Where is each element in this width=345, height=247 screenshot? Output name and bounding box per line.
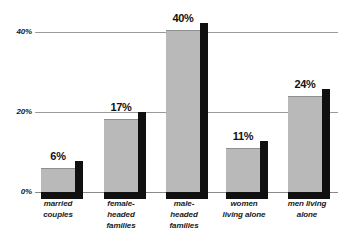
x-axis-label-men-living-alone: men living alone xyxy=(274,198,340,220)
x-label-line: female- xyxy=(88,198,154,209)
x-label-line: living alone xyxy=(211,209,277,220)
bar-side-face xyxy=(200,30,208,199)
bar-side-top xyxy=(322,89,330,96)
bar-side-face xyxy=(260,148,268,199)
bar-front-face xyxy=(166,30,200,192)
bar-side-face xyxy=(75,168,83,199)
bar-chart: 40% 20% 0% 6% 17% 40% 11% 24% xyxy=(0,0,345,247)
x-label-line: headed xyxy=(151,209,217,220)
bar-front-face xyxy=(226,148,260,192)
x-axis-label-women-living-alone: women living alone xyxy=(211,198,277,220)
x-axis-label-married-couples: married couples xyxy=(25,198,91,220)
bar-front-face xyxy=(288,96,322,192)
x-label-line: women xyxy=(211,198,277,209)
x-label-line: families xyxy=(151,220,217,231)
x-label-line: married xyxy=(25,198,91,209)
y-tick-label-40: 40% xyxy=(0,27,32,36)
x-label-line: men living xyxy=(274,198,340,209)
x-label-line: headed xyxy=(88,209,154,220)
bar-front-face xyxy=(41,168,75,192)
bar-side-top xyxy=(138,112,146,119)
bar-side-top xyxy=(260,141,268,148)
x-axis-label-male-headed-families: male- headed families xyxy=(151,198,217,231)
y-tick-label-20: 20% xyxy=(0,107,32,116)
x-label-line: alone xyxy=(274,209,340,220)
x-axis-label-female-headed-families: female- headed families xyxy=(88,198,154,231)
x-label-line: families xyxy=(88,220,154,231)
x-label-line: couples xyxy=(25,209,91,220)
bar-side-face xyxy=(138,119,146,199)
bar-side-top xyxy=(75,161,83,168)
bar-front-face xyxy=(104,119,138,192)
x-label-line: male- xyxy=(151,198,217,209)
bar-side-face xyxy=(322,96,330,199)
bar-side-top xyxy=(200,23,208,30)
y-tick-label-0: 0% xyxy=(0,187,32,196)
